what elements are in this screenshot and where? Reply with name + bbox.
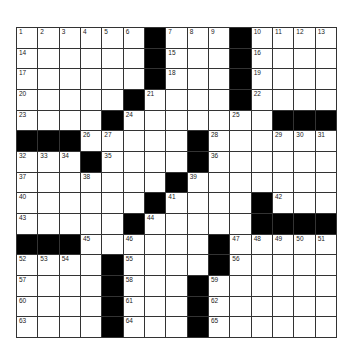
- grid-cell[interactable]: [60, 193, 80, 213]
- grid-cell[interactable]: [252, 276, 272, 296]
- grid-cell[interactable]: 51: [316, 235, 336, 255]
- grid-cell[interactable]: 29: [273, 131, 293, 151]
- grid-cell[interactable]: [102, 90, 122, 110]
- grid-cell[interactable]: [294, 49, 314, 69]
- grid-cell[interactable]: [145, 276, 165, 296]
- grid-cell[interactable]: 38: [81, 173, 101, 193]
- grid-cell[interactable]: 32: [17, 152, 37, 172]
- grid-cell[interactable]: 65: [209, 317, 229, 337]
- grid-cell[interactable]: 33: [38, 152, 58, 172]
- grid-cell[interactable]: [124, 69, 144, 89]
- grid-cell[interactable]: [230, 152, 250, 172]
- grid-cell[interactable]: [81, 90, 101, 110]
- grid-cell[interactable]: [102, 173, 122, 193]
- grid-cell[interactable]: 14: [17, 49, 37, 69]
- grid-cell[interactable]: [81, 317, 101, 337]
- grid-cell[interactable]: [188, 90, 208, 110]
- grid-cell[interactable]: [188, 235, 208, 255]
- grid-cell[interactable]: [316, 255, 336, 275]
- grid-cell[interactable]: 13: [316, 28, 336, 48]
- grid-cell[interactable]: 52: [17, 255, 37, 275]
- grid-cell[interactable]: [273, 276, 293, 296]
- grid-cell[interactable]: [81, 193, 101, 213]
- grid-cell[interactable]: 43: [17, 214, 37, 234]
- grid-cell[interactable]: [145, 235, 165, 255]
- grid-cell[interactable]: [81, 297, 101, 317]
- grid-cell[interactable]: [294, 193, 314, 213]
- grid-cell[interactable]: 26: [81, 131, 101, 151]
- grid-cell[interactable]: [102, 235, 122, 255]
- grid-cell[interactable]: 21: [145, 90, 165, 110]
- grid-cell[interactable]: 3: [60, 28, 80, 48]
- grid-cell[interactable]: [124, 49, 144, 69]
- grid-cell[interactable]: 5: [102, 28, 122, 48]
- grid-cell[interactable]: [188, 49, 208, 69]
- grid-cell[interactable]: 25: [230, 111, 250, 131]
- grid-cell[interactable]: 36: [209, 152, 229, 172]
- grid-cell[interactable]: [102, 214, 122, 234]
- grid-cell[interactable]: [294, 90, 314, 110]
- grid-cell[interactable]: [294, 152, 314, 172]
- grid-cell[interactable]: [124, 173, 144, 193]
- grid-cell[interactable]: [230, 297, 250, 317]
- grid-cell[interactable]: 1: [17, 28, 37, 48]
- grid-cell[interactable]: 16: [252, 49, 272, 69]
- grid-cell[interactable]: [102, 69, 122, 89]
- grid-cell[interactable]: [294, 317, 314, 337]
- grid-cell[interactable]: 41: [166, 193, 186, 213]
- grid-cell[interactable]: 34: [60, 152, 80, 172]
- grid-cell[interactable]: [38, 173, 58, 193]
- grid-cell[interactable]: [166, 90, 186, 110]
- grid-cell[interactable]: 64: [124, 317, 144, 337]
- grid-cell[interactable]: 10: [252, 28, 272, 48]
- grid-cell[interactable]: 44: [145, 214, 165, 234]
- grid-cell[interactable]: [60, 317, 80, 337]
- grid-cell[interactable]: [316, 152, 336, 172]
- grid-cell[interactable]: [145, 111, 165, 131]
- grid-cell[interactable]: [81, 111, 101, 131]
- grid-cell[interactable]: 22: [252, 90, 272, 110]
- grid-cell[interactable]: 63: [17, 317, 37, 337]
- grid-cell[interactable]: [316, 173, 336, 193]
- grid-cell[interactable]: [145, 131, 165, 151]
- grid-cell[interactable]: [188, 69, 208, 89]
- grid-cell[interactable]: [252, 317, 272, 337]
- grid-cell[interactable]: 39: [188, 173, 208, 193]
- grid-cell[interactable]: [252, 131, 272, 151]
- grid-cell[interactable]: 7: [166, 28, 186, 48]
- grid-cell[interactable]: [166, 276, 186, 296]
- grid-cell[interactable]: [316, 69, 336, 89]
- grid-cell[interactable]: 57: [17, 276, 37, 296]
- grid-cell[interactable]: [124, 131, 144, 151]
- grid-cell[interactable]: 56: [230, 255, 250, 275]
- grid-cell[interactable]: [252, 111, 272, 131]
- grid-cell[interactable]: 50: [294, 235, 314, 255]
- grid-cell[interactable]: [60, 214, 80, 234]
- grid-cell[interactable]: [145, 255, 165, 275]
- grid-cell[interactable]: [60, 297, 80, 317]
- grid-cell[interactable]: 54: [60, 255, 80, 275]
- grid-cell[interactable]: [166, 131, 186, 151]
- grid-cell[interactable]: 53: [38, 255, 58, 275]
- grid-cell[interactable]: [316, 49, 336, 69]
- grid-cell[interactable]: 62: [209, 297, 229, 317]
- grid-cell[interactable]: [60, 173, 80, 193]
- grid-cell[interactable]: 6: [124, 28, 144, 48]
- grid-cell[interactable]: 20: [17, 90, 37, 110]
- grid-cell[interactable]: 40: [17, 193, 37, 213]
- grid-cell[interactable]: [81, 255, 101, 275]
- grid-cell[interactable]: [102, 193, 122, 213]
- grid-cell[interactable]: [38, 111, 58, 131]
- grid-cell[interactable]: [38, 90, 58, 110]
- grid-cell[interactable]: [81, 49, 101, 69]
- grid-cell[interactable]: [273, 152, 293, 172]
- grid-cell[interactable]: [209, 193, 229, 213]
- grid-cell[interactable]: [60, 90, 80, 110]
- grid-cell[interactable]: [230, 214, 250, 234]
- grid-cell[interactable]: [230, 317, 250, 337]
- grid-cell[interactable]: 37: [17, 173, 37, 193]
- grid-cell[interactable]: [188, 214, 208, 234]
- grid-cell[interactable]: [294, 276, 314, 296]
- grid-cell[interactable]: [166, 255, 186, 275]
- grid-cell[interactable]: 35: [102, 152, 122, 172]
